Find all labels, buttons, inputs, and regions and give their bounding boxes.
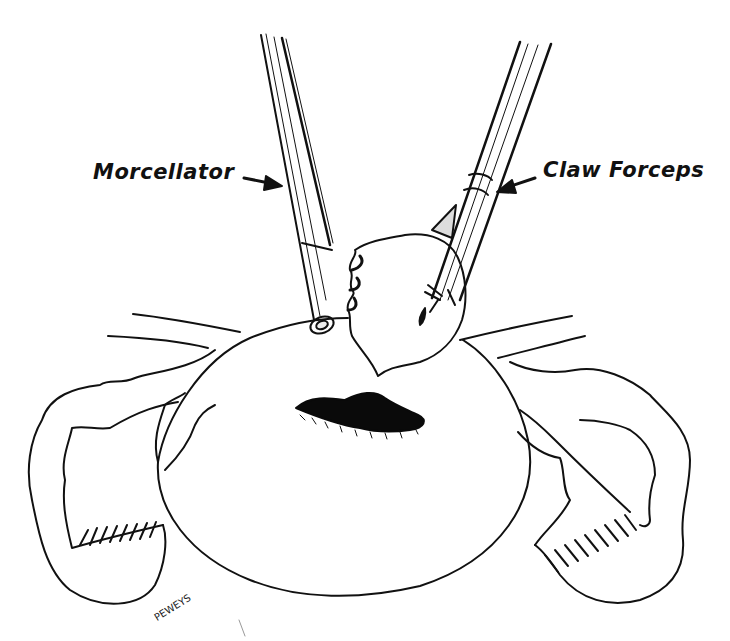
claw-forceps-instrument — [432, 42, 551, 300]
right-adnexa — [510, 362, 690, 603]
morcellator-label: Morcellator — [93, 160, 234, 184]
illustration-canvas: Morcellator Claw Forceps PEWEYS — [0, 0, 730, 641]
uterus — [158, 318, 530, 596]
illustration-drawing — [0, 0, 730, 641]
morcellator-arrow-icon — [244, 176, 282, 190]
left-ligaments — [108, 314, 240, 348]
uterine-defect — [296, 393, 424, 439]
claw-forceps-label: Claw Forceps — [543, 158, 704, 182]
stray-mark — [239, 620, 245, 636]
left-adnexa — [29, 350, 215, 604]
